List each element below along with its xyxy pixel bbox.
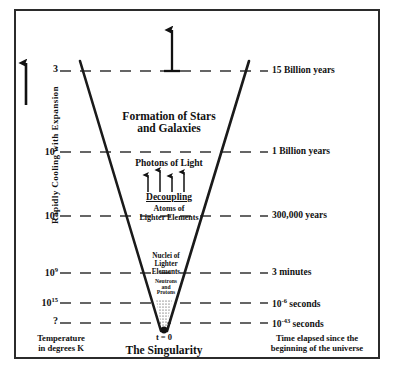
epoch-photons-of-light: Photons of Light [104,158,234,168]
temperature-tick-10e4: 104 [26,209,58,222]
time-label-10e-43-seconds: 10-43 seconds [272,317,324,329]
epoch-nuclei-of-lighter-elements: Nuclei of Lighter Elements [131,253,201,276]
time-label-15-billion-years: 15 Billion years [272,65,335,75]
temperature-tick-10e9: 109 [26,266,58,279]
photon-arrow-group [148,170,184,192]
time-label-10e-6-seconds: 10-6 seconds [272,297,320,309]
label-t-equals-zero: t = 0 [134,333,194,342]
time-label-3-minutes: 3 minutes [272,267,311,277]
label-the-singularity: The Singularity [108,344,220,356]
epoch-formation-of-stars: Formation of Stars and Galaxies [104,110,234,135]
epoch-atoms-of-lighter-elements: Atoms of Lighter Elements [112,205,226,222]
left-axis-caption: Temperature in degrees K [20,334,102,354]
diagram-canvas: Rapidly Cooling with Expansion 3 102 104… [0,0,397,377]
epoch-neutrons-and-protons: Neutrons and Protons [138,279,194,296]
time-label-300000-years: 300,000 years [272,210,327,220]
temperature-tick-unknown: ? [34,316,58,327]
time-label-1-billion-years: 1 Billion years [272,146,330,156]
temperature-tick-10e2: 102 [26,145,58,158]
epoch-decoupling: Decoupling [116,192,222,202]
right-axis-caption: Time elapsed since the beginning of the … [258,334,376,354]
temperature-tick-10e15: 1015 [24,296,58,309]
temperature-tick-3: 3 [34,64,58,75]
